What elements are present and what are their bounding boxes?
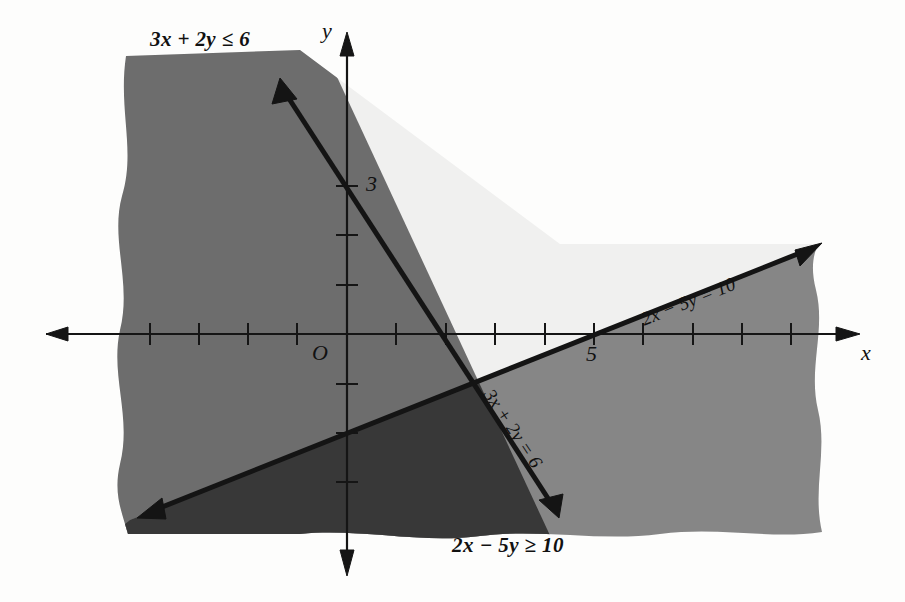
y-axis-label: y xyxy=(322,18,332,44)
inequality-label-3x-2y-le-6: 3x + 2y ≤ 6 xyxy=(150,27,250,52)
x-axis-arrow-right xyxy=(836,327,860,341)
paper-grain xyxy=(0,0,905,602)
inequality-label-2x-5y-ge-10: 2x − 5y ≥ 10 xyxy=(452,533,564,558)
shaded-regions xyxy=(0,0,905,602)
x-axis-label: x xyxy=(861,340,871,366)
graph-svg xyxy=(0,0,905,602)
y-axis-arrow-up xyxy=(340,32,354,56)
x-tick-label-5: 5 xyxy=(586,341,597,367)
figure-canvas: 3x + 2y ≤ 6 2x − 5y ≥ 10 3x + 2y = 6 2x … xyxy=(0,0,905,602)
y-axis-arrow-down xyxy=(340,550,354,576)
y-tick-label-3: 3 xyxy=(366,171,377,197)
x-axis-arrow-left xyxy=(46,327,68,341)
origin-label: O xyxy=(312,340,328,366)
